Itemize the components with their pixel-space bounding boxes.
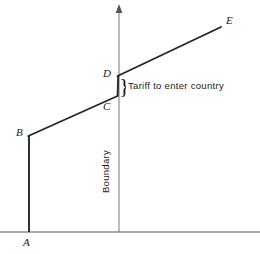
point-label-d: D [103, 68, 111, 79]
tariff-brace-icon: } [119, 74, 126, 98]
tariff-boundary-diagram: } A B C D E Tariff to enter country Boun… [0, 0, 260, 254]
boundary-axis-label-text: Boundary [101, 150, 111, 193]
tariff-annotation-label: Tariff to enter country [128, 81, 224, 91]
segment-d-e [118, 27, 221, 76]
point-label-b: B [16, 127, 23, 138]
axis-arrowhead-icon [116, 4, 123, 13]
boundary-axis-label: Boundary [101, 107, 111, 150]
diagram-canvas [0, 0, 260, 254]
point-label-e: E [226, 15, 233, 26]
point-label-a: A [23, 237, 30, 248]
